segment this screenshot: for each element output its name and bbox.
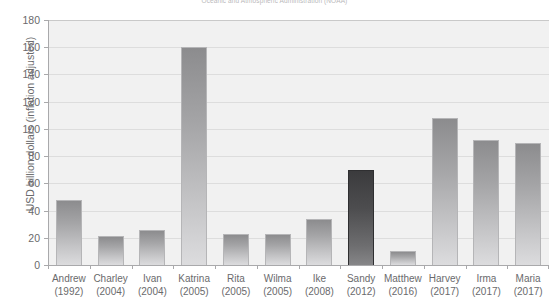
y-tick-label: 60	[28, 177, 48, 189]
x-tick-slot: Ivan(2004)	[132, 265, 174, 299]
x-tick-mark	[466, 265, 467, 269]
bar-rita[interactable]	[223, 234, 249, 265]
y-tick-label: 40	[28, 205, 48, 217]
x-tick-label-name: Irma	[476, 273, 496, 284]
bar-slot	[48, 20, 90, 265]
x-tick-label-name: Ike	[313, 273, 326, 284]
x-tick-slot: Maria(2017)	[507, 265, 549, 299]
bar-harvey[interactable]	[432, 118, 458, 265]
x-tick-label-name: Charley	[93, 273, 127, 284]
x-tick-slot: Ike(2008)	[299, 265, 341, 299]
bar-slot	[173, 20, 215, 265]
x-tick-label-year: (2005)	[173, 286, 215, 299]
x-tick-label-year: (1992)	[48, 286, 90, 299]
x-tick-label-year: (2016)	[382, 286, 424, 299]
chart-source-note: Oceanic and Atmospheric Administration (…	[0, 0, 549, 5]
bar-slot	[132, 20, 174, 265]
y-tick-label: 80	[28, 150, 48, 162]
bar-slot	[299, 20, 341, 265]
bar-wilma[interactable]	[265, 234, 291, 265]
x-tick-slot: Katrina(2005)	[173, 265, 215, 299]
x-tick-label-year: (2017)	[507, 286, 549, 299]
x-tick-slot: Matthew(2016)	[382, 265, 424, 299]
bar-slot	[215, 20, 257, 265]
x-tick-label-katrina: Katrina(2005)	[173, 273, 215, 298]
bar-slot	[507, 20, 549, 265]
bar-andrew[interactable]	[56, 200, 82, 265]
x-tick-label-name: Katrina	[178, 273, 210, 284]
bar-chart-figure: Oceanic and Atmospheric Administration (…	[0, 0, 549, 299]
x-tick-label-irma: Irma(2017)	[466, 273, 508, 298]
x-tick-label-rita: Rita(2005)	[215, 273, 257, 298]
bar-charley[interactable]	[98, 236, 124, 265]
x-tick-mark	[173, 265, 174, 269]
y-tick-label: 140	[22, 68, 48, 80]
x-tick-label-name: Matthew	[384, 273, 422, 284]
plot-area: 020406080100120140160180	[48, 20, 549, 265]
x-tick-slot: Rita(2005)	[215, 265, 257, 299]
x-tick-slot: Andrew(1992)	[48, 265, 90, 299]
x-tick-label-year: (2005)	[215, 286, 257, 299]
x-tick-label-matthew: Matthew(2016)	[382, 273, 424, 298]
x-tick-label-harvey: Harvey(2017)	[424, 273, 466, 298]
bar-slot	[382, 20, 424, 265]
x-tick-label-name: Harvey	[429, 273, 461, 284]
x-tick-label-year: (2008)	[299, 286, 341, 299]
x-tick-mark	[340, 265, 341, 269]
y-tick-label: 100	[22, 123, 48, 135]
x-tick-label-year: (2004)	[90, 286, 132, 299]
x-tick-label-ike: Ike(2008)	[299, 273, 341, 298]
x-tick-slot: Charley(2004)	[90, 265, 132, 299]
x-tick-label-sandy: Sandy(2012)	[340, 273, 382, 298]
x-tick-slot: Harvey(2017)	[424, 265, 466, 299]
x-tick-slot: Sandy(2012)	[340, 265, 382, 299]
x-tick-label-year: (2017)	[424, 286, 466, 299]
x-tick-mark	[382, 265, 383, 269]
x-tick-label-ivan: Ivan(2004)	[132, 273, 174, 298]
x-tick-mark	[48, 265, 49, 269]
bar-slot	[340, 20, 382, 265]
y-tick-label: 180	[22, 14, 48, 26]
x-tick-mark	[507, 265, 508, 269]
x-tick-label-charley: Charley(2004)	[90, 273, 132, 298]
x-tick-slot: Irma(2017)	[466, 265, 508, 299]
bar-slot	[257, 20, 299, 265]
x-tick-label-wilma: Wilma(2005)	[257, 273, 299, 298]
y-tick-label: 120	[22, 96, 48, 108]
x-tick-mark	[215, 265, 216, 269]
bar-sandy[interactable]	[348, 170, 374, 265]
x-tick-mark	[132, 265, 133, 269]
bar-matthew[interactable]	[390, 251, 416, 265]
x-tick-mark	[299, 265, 300, 269]
x-tick-label-name: Rita	[227, 273, 245, 284]
bar-maria[interactable]	[515, 143, 541, 266]
x-tick-label-name: Maria	[516, 273, 541, 284]
x-tick-label-maria: Maria(2017)	[507, 273, 549, 298]
bar-irma[interactable]	[473, 140, 499, 265]
x-tick-label-andrew: Andrew(1992)	[48, 273, 90, 298]
y-tick-label: 20	[28, 232, 48, 244]
x-tick-label-name: Wilma	[264, 273, 292, 284]
bar-slot	[424, 20, 466, 265]
x-tick-label-year: (2012)	[340, 286, 382, 299]
bar-katrina[interactable]	[181, 47, 207, 265]
x-axis-ticks: Andrew(1992)Charley(2004)Ivan(2004)Katri…	[48, 265, 549, 299]
bar-slot	[90, 20, 132, 265]
x-tick-label-name: Sandy	[347, 273, 375, 284]
bar-ivan[interactable]	[139, 230, 165, 265]
bar-ike[interactable]	[306, 219, 332, 265]
x-tick-slot: Wilma(2005)	[257, 265, 299, 299]
x-tick-mark	[257, 265, 258, 269]
x-tick-label-name: Ivan	[143, 273, 162, 284]
x-tick-mark	[90, 265, 91, 269]
x-tick-label-year: (2017)	[466, 286, 508, 299]
y-tick-label: 0	[34, 259, 48, 271]
x-tick-mark	[424, 265, 425, 269]
bar-slot	[466, 20, 508, 265]
x-tick-label-name: Andrew	[52, 273, 86, 284]
x-tick-label-year: (2004)	[132, 286, 174, 299]
y-tick-label: 160	[22, 41, 48, 53]
bar-series	[48, 20, 549, 265]
x-tick-label-year: (2005)	[257, 286, 299, 299]
